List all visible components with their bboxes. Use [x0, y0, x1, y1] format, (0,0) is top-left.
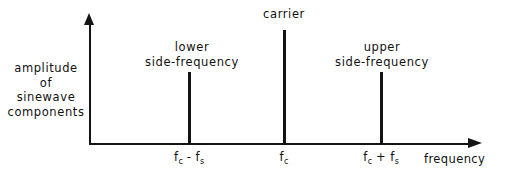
y-axis-label: amplitude of sinewave components [4, 61, 88, 119]
x-tick-label-lower-side-frequency: fc - fs [174, 150, 204, 166]
y-axis-label-line-1: amplitude [4, 61, 88, 76]
y-axis-line [89, 22, 91, 144]
y-axis-label-line-2: of [4, 76, 88, 91]
x-tick-label-carrier: fc [280, 150, 289, 166]
y-axis-label-line-4: components [4, 105, 88, 120]
annotation-lower-line-2: side-frequency [145, 55, 239, 70]
annotation-upper-line-2: side-frequency [335, 55, 429, 70]
tick-upper-operator: + f [372, 150, 395, 164]
x-tick-label-upper-side-frequency: fc + fs [363, 150, 399, 166]
spectral-line-lower-side-frequency [188, 72, 191, 144]
annotation-upper-line-1: upper [335, 40, 429, 55]
x-axis-arrow-icon [468, 138, 482, 148]
spectral-line-carrier [283, 30, 286, 144]
spectral-line-upper-side-frequency [380, 72, 383, 144]
tick-lower-operator: - f [183, 150, 200, 164]
annotation-lower-line-1: lower [145, 40, 239, 55]
x-axis-line [89, 143, 473, 145]
annotation-carrier: carrier [263, 7, 305, 22]
tick-carrier-sub: c [284, 157, 288, 166]
tick-lower-sub-2: s [200, 157, 204, 166]
annotation-lower-side-frequency: lower side-frequency [145, 40, 239, 69]
tick-upper-sub-2: s [395, 157, 399, 166]
x-axis-label: frequency [424, 152, 485, 167]
annotation-carrier-text: carrier [263, 7, 305, 22]
spectrum-figure: amplitude of sinewave components carrier… [0, 0, 510, 189]
y-axis-label-line-3: sinewave [4, 90, 88, 105]
annotation-upper-side-frequency: upper side-frequency [335, 40, 429, 69]
